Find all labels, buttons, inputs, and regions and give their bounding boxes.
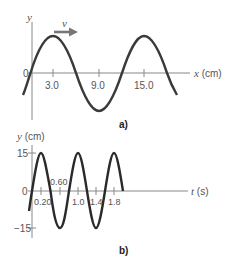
origin-label-b: 0 bbox=[22, 186, 28, 197]
graph-b: y (cm) 15 −15 0 0.20 0.60 1.0 1.4 1.8 t … bbox=[14, 130, 209, 256]
figure: v y 0 3.0 9.0 15.0 x (cm) a) y (cm) 15 −… bbox=[0, 0, 231, 266]
tick-label-b-1.0: 1.0 bbox=[72, 197, 85, 207]
caption-b: b) bbox=[119, 245, 128, 256]
tick-label-b-1.8: 1.8 bbox=[108, 197, 121, 207]
tick-label-b-0.20: 0.20 bbox=[34, 197, 52, 207]
tick-label-b-1.4: 1.4 bbox=[90, 197, 103, 207]
t-axis-label-b: t (s) bbox=[191, 185, 209, 197]
x-axis-label-a: x (cm) bbox=[193, 67, 222, 79]
velocity-label: v bbox=[62, 17, 67, 29]
tick-label-a-15: 15.0 bbox=[134, 80, 154, 91]
y-tick-label-15: 15 bbox=[17, 148, 29, 159]
tick-label-b-0.60: 0.60 bbox=[50, 177, 68, 187]
origin-label-a: 0 bbox=[23, 68, 29, 79]
tick-label-a-3: 3.0 bbox=[45, 80, 59, 91]
tick-label-a-9: 9.0 bbox=[91, 80, 105, 91]
graph-a: v y 0 3.0 9.0 15.0 x (cm) a) bbox=[23, 11, 222, 130]
caption-a: a) bbox=[119, 119, 128, 130]
y-axis-label-a: y bbox=[26, 11, 32, 23]
y-axis-label-b: y (cm) bbox=[16, 130, 45, 142]
y-tick-label-neg15: −15 bbox=[14, 223, 31, 234]
